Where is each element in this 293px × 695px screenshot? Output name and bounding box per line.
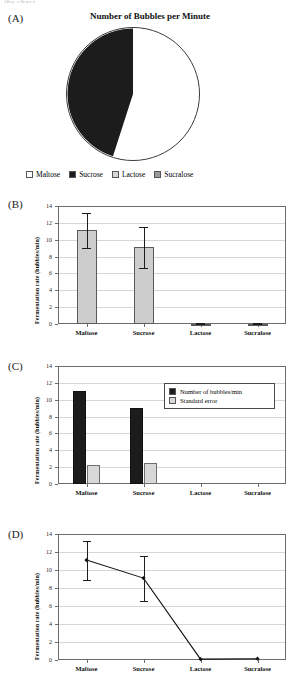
- gridline: [59, 433, 285, 434]
- error-bar-cap: [83, 541, 91, 542]
- y-axis-tick: [55, 273, 58, 274]
- data-point-sucralose: [255, 657, 259, 661]
- y-axis-tick: [55, 290, 58, 291]
- error-bar: [87, 541, 88, 580]
- error-bar-cap: [83, 580, 91, 581]
- y-axis-tick-label: 0: [38, 481, 52, 487]
- legend-item-standard-error: Standard error: [169, 396, 270, 405]
- y-axis-tick-label: 2: [38, 304, 52, 310]
- legend-item-sucralose: Sucralose: [154, 170, 193, 179]
- y-axis-tick-label: 10: [38, 237, 52, 243]
- legend-label-sucralose: Sucralose: [164, 170, 193, 179]
- error-bar-cap: [139, 268, 148, 269]
- legend-item-bubbles: Number of bubbles/min: [169, 387, 270, 396]
- x-axis-tick-label: Maltose: [59, 329, 115, 336]
- x-axis-tick-label: Sucralose: [230, 489, 286, 496]
- y-axis-tick-label: 12: [38, 380, 52, 386]
- legend-item-maltose: Maltose: [26, 170, 60, 179]
- pie-slices: [67, 28, 199, 160]
- y-axis-label: Fermentation rate (bubbles/min): [34, 397, 40, 484]
- y-axis-tick-label: 4: [38, 287, 52, 293]
- gridline: [59, 450, 285, 451]
- legend-label-sucrose: Sucrose: [79, 170, 103, 179]
- bar-maltose-value: [73, 391, 86, 484]
- y-axis-tick: [55, 366, 58, 367]
- bar-sucrose-error: [144, 463, 157, 484]
- legend-swatch-sucrose: [69, 171, 76, 178]
- panel-a-pie-chart: (A) Number of Bubbles per Minute Maltose…: [0, 0, 293, 190]
- pie-chart-plot: [66, 27, 200, 161]
- x-axis-tick-label: Sucrose: [116, 329, 172, 336]
- gridline: [59, 417, 285, 418]
- error-bar-cap: [139, 227, 148, 228]
- legend-swatch-sucralose: [154, 171, 161, 178]
- error-bar-cap: [82, 213, 91, 214]
- y-axis-tick: [55, 383, 58, 384]
- panel-d-line-chart: (D) 02468101214Fermentation rate (bubble…: [0, 518, 293, 695]
- chart-d-plot: 02468101214Fermentation rate (bubbles/mi…: [0, 518, 293, 695]
- line-series: [0, 518, 293, 695]
- x-axis-tick-label: Sucrose: [116, 489, 172, 496]
- gridline: [59, 223, 285, 224]
- x-axis-tick-label: Maltose: [59, 489, 115, 496]
- pie-chart-title: Number of Bubbles per Minute: [55, 11, 245, 21]
- error-bar-cap: [82, 248, 91, 249]
- legend-swatch-maltose: [26, 171, 33, 178]
- y-axis-tick: [55, 223, 58, 224]
- error-bar: [144, 227, 145, 268]
- bar-sucrose-value: [130, 408, 143, 484]
- y-axis-tick-label: 4: [38, 447, 52, 453]
- y-axis-tick: [55, 206, 58, 207]
- y-axis-tick: [55, 307, 58, 308]
- y-axis-tick: [55, 467, 58, 468]
- legend-label-standard-error: Standard error: [180, 396, 217, 405]
- x-axis-tick: [87, 324, 88, 327]
- legend-label-lactose: Lactose: [122, 170, 145, 179]
- chart-b-plot: 02468101214Fermentation rate (bubbles/mi…: [0, 196, 293, 346]
- y-axis-tick-label: 14: [38, 363, 52, 369]
- error-bar-cap: [140, 556, 148, 557]
- pie-legend: Maltose Sucrose Lactose Sucralose: [26, 170, 271, 179]
- chart-c-legend: Number of bubbles/minStandard error: [164, 383, 275, 409]
- error-bar: [144, 556, 145, 601]
- y-axis-tick-label: 10: [38, 397, 52, 403]
- legend-label-bubbles: Number of bubbles/min: [180, 387, 242, 396]
- y-axis-tick-label: 14: [38, 203, 52, 209]
- y-axis-tick-label: 6: [38, 270, 52, 276]
- x-axis-tick-label: Sucralose: [230, 329, 286, 336]
- y-axis-tick-label: 0: [38, 321, 52, 327]
- panel-b-bar-chart: (B) 02468101214Fermentation rate (bubble…: [0, 196, 293, 346]
- x-axis-tick-label: Lactose: [173, 329, 229, 336]
- panel-c-bar-chart: (C) 02468101214Fermentation rate (bubble…: [0, 352, 293, 507]
- panel-a-label: (A): [8, 12, 23, 24]
- error-bar-cap: [253, 324, 262, 325]
- y-axis-tick: [55, 484, 58, 485]
- legend-label-maltose: Maltose: [36, 170, 60, 179]
- y-axis-tick: [55, 324, 58, 325]
- y-axis-tick-label: 12: [38, 220, 52, 226]
- y-axis-tick: [55, 257, 58, 258]
- error-bar-cap: [140, 601, 148, 602]
- x-axis-tick: [87, 484, 88, 487]
- legend-swatch-standard-error: [169, 397, 176, 404]
- y-axis-tick-label: 8: [38, 414, 52, 420]
- y-axis-tick: [55, 400, 58, 401]
- x-axis-tick-label: Lactose: [173, 489, 229, 496]
- y-axis-tick-label: 6: [38, 430, 52, 436]
- legend-item-sucrose: Sucrose: [69, 170, 103, 179]
- x-axis-tick: [258, 484, 259, 487]
- y-axis-tick: [55, 450, 58, 451]
- x-axis-tick: [144, 484, 145, 487]
- y-axis-tick-label: 2: [38, 464, 52, 470]
- y-axis-label: Fermentation rate (bubbles/min): [34, 237, 40, 324]
- error-bar-cap: [196, 324, 205, 325]
- y-axis-tick: [55, 433, 58, 434]
- y-axis-tick: [55, 417, 58, 418]
- legend-swatch-lactose: [112, 171, 119, 178]
- pie-circle: [66, 27, 200, 161]
- legend-item-lactose: Lactose: [112, 170, 145, 179]
- x-axis-tick: [144, 324, 145, 327]
- chart-c-plot: 02468101214Fermentation rate (bubbles/mi…: [0, 352, 293, 507]
- legend-swatch-bubbles: [169, 388, 176, 395]
- error-bar: [87, 213, 88, 248]
